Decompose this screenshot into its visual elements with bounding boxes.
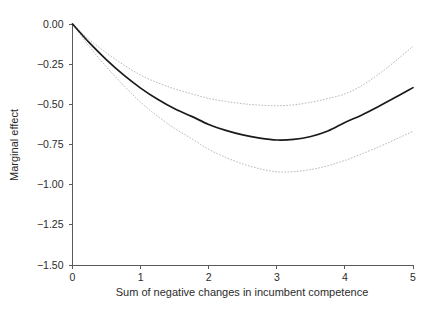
y-tick-label: −0.50 [37, 98, 64, 110]
x-axis-group: 012345 [70, 265, 417, 283]
y-axis-ticks [69, 24, 73, 265]
chart-canvas: 0.00−0.25−0.50−0.75−1.00−1.25−1.50 01234… [0, 0, 431, 316]
y-tick-label: −0.75 [37, 138, 64, 150]
x-tick-label: 0 [70, 271, 76, 283]
x-axis-tick-labels: 012345 [70, 271, 417, 283]
x-tick-label: 4 [342, 271, 348, 283]
x-tick-label: 5 [410, 271, 416, 283]
y-axis-tick-labels: 0.00−0.25−0.50−0.75−1.00−1.25−1.50 [37, 18, 64, 271]
y-tick-label: −0.25 [37, 58, 64, 70]
y-tick-label: −1.00 [37, 178, 64, 190]
marginal-effect-chart: 0.00−0.25−0.50−0.75−1.00−1.25−1.50 01234… [0, 0, 431, 316]
x-tick-label: 1 [138, 271, 144, 283]
y-axis-title: Marginal effect [8, 109, 20, 181]
lower-confidence-line [73, 24, 414, 172]
series-group [73, 24, 414, 172]
x-tick-label: 2 [206, 271, 212, 283]
y-tick-label: 0.00 [43, 18, 64, 30]
y-tick-label: −1.50 [37, 259, 64, 271]
marginal-effect-line [73, 24, 414, 140]
y-axis-group: 0.00−0.25−0.50−0.75−1.00−1.25−1.50 [37, 18, 73, 271]
y-tick-label: −1.25 [37, 218, 64, 230]
x-tick-label: 3 [274, 271, 280, 283]
upper-confidence-line [73, 24, 414, 106]
x-axis-title: Sum of negative changes in incumbent com… [116, 286, 369, 298]
